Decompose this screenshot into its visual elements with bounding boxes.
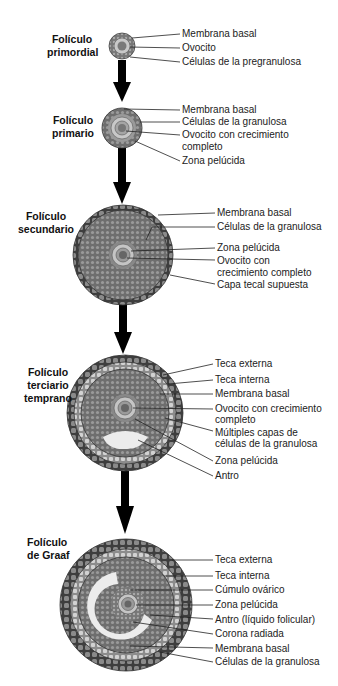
stage-title-early-tertiary: Folículo terciario temprano [24, 366, 72, 405]
label-basement-membrane: Membrana basal [217, 207, 291, 219]
label-presumptive-theca: Capa tecal supuesta [217, 279, 308, 291]
label-zona-pellucida: Zona pelúcida [215, 455, 278, 467]
label-antrum: Antro [215, 470, 239, 482]
label-grown-oocyte: Ovocito con [217, 255, 270, 267]
stage-title-secondary: Folículo secundario [18, 210, 74, 236]
label-theca-interna: Teca interna [215, 374, 269, 386]
label-grown-oocyte-cont: completo [215, 414, 256, 426]
label-basement-membrane: Membrana basal [182, 28, 256, 40]
arrow-icon [113, 60, 131, 102]
label-basement-membrane: Membrana basal [215, 643, 289, 655]
follicle-development-diagram [0, 0, 338, 686]
label-grown-oocyte-cont: crecimiento completo [217, 267, 311, 279]
label-theca-externa: Teca externa [215, 554, 272, 566]
label-zona-pellucida: Zona pelúcida [215, 599, 278, 611]
arrow-icon [114, 302, 132, 354]
label-granulosa-cells: Células de la granulosa [182, 116, 287, 128]
label-cumulus-oophorus: Cúmulo ovárico [215, 584, 284, 596]
label-zona-pellucida: Zona pelúcida [182, 155, 245, 167]
label-grown-oocyte-cont: completo [182, 141, 223, 153]
label-antrum-follicular-fluid: Antro (líquido folicular) [215, 614, 315, 626]
primordial-follicle-illustration [109, 33, 135, 59]
secondary-follicle-illustration [73, 205, 173, 305]
label-granulosa-cells: Células de la granulosa [217, 221, 322, 233]
stage-title-primordial: Folículo primordial [47, 33, 97, 59]
label-basement-membrane: Membrana basal [215, 388, 289, 400]
label-theca-externa: Teca externa [215, 358, 272, 370]
label-zona-pellucida: Zona pelúcida [217, 242, 280, 254]
label-multilayer-granulosa-cont: células de la granulosa [215, 438, 317, 450]
label-theca-interna: Teca interna [215, 570, 269, 582]
stage-title-primary: Folículo primario [48, 114, 98, 140]
stage-title-graafian: Folículo de Graaf [27, 536, 70, 562]
label-grown-oocyte: Ovocito con crecimiento [182, 129, 289, 141]
label-basement-membrane: Membrana basal [182, 104, 256, 116]
label-pregranulosa-cells: Células de la pregranulosa [182, 56, 301, 68]
label-corona-radiata: Corona radiada [215, 628, 284, 640]
arrow-icon [113, 148, 131, 204]
label-granulosa-cells: Células de la granulosa [215, 656, 320, 668]
primary-follicle-illustration [102, 108, 142, 148]
arrow-icon [116, 468, 134, 534]
label-oocyte: Ovocito [182, 42, 216, 54]
